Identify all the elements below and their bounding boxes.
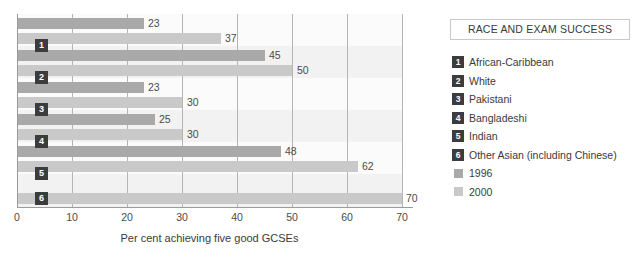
bar-2000-white[interactable] [17, 65, 292, 76]
bar-group-2: 45 50 [17, 50, 402, 78]
category-badge-3: 3 [35, 103, 48, 116]
x-tick-60: 60 [335, 211, 359, 223]
legend-label-3: Pakistani [469, 93, 512, 105]
x-axis-title: Per cent achieving five good GCSEs [17, 232, 402, 244]
x-tick-20: 20 [115, 211, 139, 223]
bar-value-2000-pakistani: 30 [187, 97, 199, 108]
legend-label-2000: 2000 [469, 186, 492, 198]
x-tick-30: 30 [170, 211, 194, 223]
bar-group-6: 70 [17, 178, 402, 206]
legend-label-4: Bangladeshi [469, 112, 527, 124]
y-axis-line [17, 14, 18, 208]
bar-2000-indian[interactable] [17, 161, 358, 172]
category-badge-2: 2 [35, 71, 48, 84]
legend-swatch-2000 [454, 187, 463, 196]
legend-item-indian[interactable]: 5 Indian [452, 127, 638, 146]
legend-label-2: White [469, 75, 496, 87]
legend-label-1: African-Caribbean [469, 56, 554, 68]
legend-label-5: Indian [469, 130, 498, 142]
x-tick-10: 10 [60, 211, 84, 223]
bar-value-1996-white: 45 [269, 50, 281, 61]
legend-badge-2: 2 [452, 75, 464, 87]
legend-badge-5: 5 [452, 130, 464, 142]
legend-label-6: Other Asian (including Chinese) [469, 149, 617, 161]
category-badge-6: 6 [35, 192, 48, 205]
legend-badge-4: 4 [452, 112, 464, 124]
bar-1996-indian[interactable] [17, 146, 281, 157]
legend-item-other-asian[interactable]: 6 Other Asian (including Chinese) [452, 146, 638, 165]
bar-1996-african-caribbean[interactable] [17, 18, 144, 29]
legend-badge-6: 6 [452, 149, 464, 161]
bar-2000-other-asian[interactable] [17, 193, 402, 204]
x-tick-70: 70 [390, 211, 414, 223]
x-axis-line [17, 207, 413, 208]
legend-swatch-1996 [454, 169, 463, 178]
legend-item-white[interactable]: 2 White [452, 72, 638, 91]
legend-badge-1: 1 [452, 56, 464, 68]
bar-value-2000-bangladeshi: 30 [187, 129, 199, 140]
gridline-70 [402, 14, 403, 207]
legend-item-african-caribbean[interactable]: 1 African-Caribbean [452, 53, 638, 72]
plot-area: 23 37 1 45 50 2 23 30 3 [17, 14, 402, 207]
bar-value-1996-indian: 48 [285, 146, 297, 157]
legend-item-pakistani[interactable]: 3 Pakistani [452, 90, 638, 109]
legend-item-1996[interactable]: 1996 [452, 164, 638, 183]
bar-value-1996-pakistani: 23 [148, 82, 160, 93]
bar-value-2000-white: 50 [297, 65, 309, 76]
bar-1996-white[interactable] [17, 50, 265, 61]
legend-items: 1 African-Caribbean 2 White 3 Pakistani … [452, 53, 638, 201]
bar-group-3: 23 30 [17, 82, 402, 110]
race-and-exam-success-figure: 23 37 1 45 50 2 23 30 3 [0, 0, 638, 263]
x-tick-0: 0 [5, 211, 29, 223]
bar-group-1: 23 37 [17, 18, 402, 46]
bar-value-1996-bangladeshi: 25 [159, 114, 171, 125]
legend-item-bangladeshi[interactable]: 4 Bangladeshi [452, 109, 638, 128]
legend-title-box: RACE AND EXAM SUCCESS [450, 19, 630, 40]
bar-value-1996-african-caribbean: 23 [148, 18, 160, 29]
legend-panel: RACE AND EXAM SUCCESS 1 African-Caribbea… [440, 0, 638, 263]
bar-group-4: 25 30 [17, 114, 402, 142]
bar-group-5: 48 62 [17, 146, 402, 174]
bar-value-2000-other-asian: 70 [406, 193, 418, 204]
bar-value-2000-african-caribbean: 37 [225, 33, 237, 44]
category-badge-1: 1 [35, 39, 48, 52]
category-badge-4: 4 [35, 135, 48, 148]
legend-badge-3: 3 [452, 93, 464, 105]
x-tick-50: 50 [280, 211, 304, 223]
category-badge-5: 5 [35, 167, 48, 180]
legend-label-1996: 1996 [469, 167, 492, 179]
bar-chart: 23 37 1 45 50 2 23 30 3 [0, 0, 432, 263]
legend-item-2000[interactable]: 2000 [452, 183, 638, 202]
bar-value-2000-indian: 62 [362, 161, 374, 172]
legend-title: RACE AND EXAM SUCCESS [451, 20, 629, 39]
x-tick-40: 40 [225, 211, 249, 223]
